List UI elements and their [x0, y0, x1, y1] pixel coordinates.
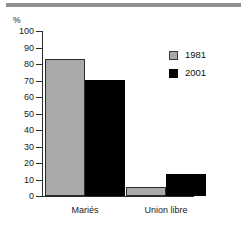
y-axis-tick-label: 20: [4, 159, 34, 168]
y-axis-tick: [36, 64, 42, 65]
chart-legend: 1981 2001: [169, 48, 206, 84]
y-axis-tick: [36, 114, 42, 115]
bar-2001-union-libre: [166, 174, 206, 196]
y-axis-line: [42, 31, 43, 197]
plot-area: 1009080706050403020100 MariésUnion libre: [0, 0, 248, 229]
x-axis-line: [42, 196, 194, 197]
y-axis-tick: [36, 196, 42, 197]
y-axis-tick: [36, 130, 42, 131]
bar-2001-mariés: [85, 80, 125, 196]
y-axis-tick-label: 40: [4, 126, 34, 135]
black-square-swatch-icon: [169, 69, 178, 78]
y-axis-tick-label: 90: [4, 44, 34, 53]
y-axis-tick-label: 30: [4, 143, 34, 152]
y-axis-tick: [36, 180, 42, 181]
y-axis-tick-label: 60: [4, 93, 34, 102]
y-axis-tick: [36, 163, 42, 164]
legend-item-2001: 2001: [169, 66, 206, 80]
legend-item-1981: 1981: [169, 48, 206, 62]
gray-square-swatch-icon: [169, 51, 178, 60]
y-axis-tick: [36, 147, 42, 148]
y-axis-tick: [36, 48, 42, 49]
bar-1981-union-libre: [126, 187, 166, 196]
y-axis-tick-label: 70: [4, 77, 34, 86]
y-axis-tick: [36, 81, 42, 82]
legend-label-2001: 2001: [185, 68, 206, 78]
x-axis-label-union-libre: Union libre: [106, 205, 226, 215]
y-axis-tick-label: 80: [4, 60, 34, 69]
y-axis-tick: [36, 31, 42, 32]
bar-1981-mariés: [45, 59, 85, 196]
legend-label-1981: 1981: [185, 50, 206, 60]
y-axis-tick-label: 0: [4, 192, 34, 201]
y-axis-tick: [36, 97, 42, 98]
y-axis-tick-label: 100: [4, 27, 34, 36]
y-axis-tick-label: 50: [4, 110, 34, 119]
chart-figure: % 1009080706050403020100 MariésUnion lib…: [0, 0, 248, 229]
y-axis-tick-label: 10: [4, 176, 34, 185]
